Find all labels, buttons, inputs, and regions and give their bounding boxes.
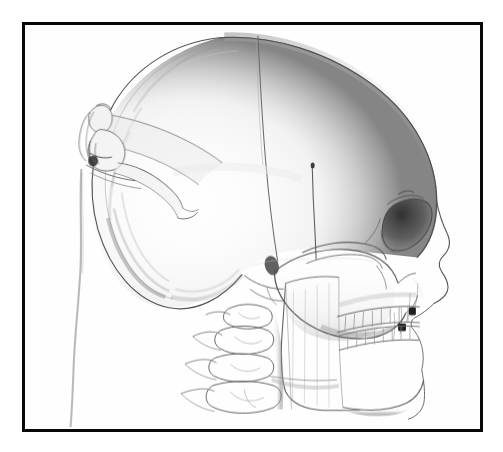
skull-drawing <box>25 25 480 429</box>
upper-filled-molar-a <box>409 307 416 315</box>
figure-head <box>89 105 113 132</box>
figure-hand-grip <box>88 156 98 167</box>
styloid-tip <box>311 162 315 168</box>
lower-filled-molar-b <box>398 324 406 331</box>
artwork-root: Human Skull, Lateral View graphite penci… <box>0 0 503 452</box>
drawing-frame <box>22 22 483 432</box>
